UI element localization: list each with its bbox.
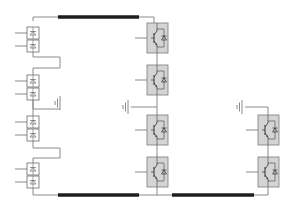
diode-icon [27, 75, 39, 87]
igbt-module-icon [246, 157, 279, 187]
diode-icon [27, 116, 39, 128]
link-wire-1 [33, 51, 60, 75]
diode-icon [27, 163, 39, 175]
mid-node-wire [33, 99, 60, 109]
igbt-module-icon [135, 157, 168, 187]
bottom-wire [254, 187, 268, 195]
diode-icon [27, 129, 39, 141]
circuit-canvas [0, 0, 300, 209]
top-right-wire [139, 17, 154, 23]
diode-icon [27, 88, 39, 100]
ground-icon [123, 100, 128, 114]
diode-icon [27, 27, 39, 39]
diode-icon [27, 40, 39, 52]
wires [15, 17, 268, 195]
power-converter-diagram [0, 0, 300, 209]
diode-icon [27, 176, 39, 188]
link-wire-2 [33, 140, 60, 163]
grounds [55, 96, 242, 114]
igbt-module-icon [246, 115, 279, 145]
ground-icon [237, 100, 242, 114]
igbt-module-icon [135, 65, 168, 95]
ground-wire [245, 107, 268, 115]
igbt-module-icon [135, 115, 168, 145]
igbt-module-icon [135, 23, 168, 53]
ground-icon [55, 96, 60, 110]
top-left-wire [33, 17, 58, 21]
